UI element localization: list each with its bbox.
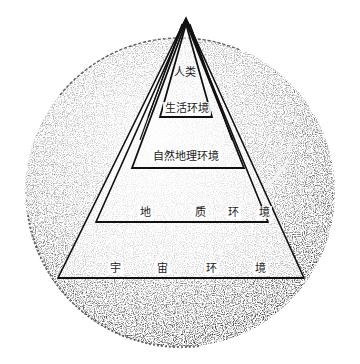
label-cosmic-environment: 宇宙环境 [108, 262, 268, 275]
label-natural-geographic-environment: 自然地理环境 [151, 150, 221, 163]
label-living-environment: 生活环境 [163, 102, 211, 115]
geologic-char-3: 环 [226, 206, 241, 219]
environment-pyramid-diagram [0, 0, 360, 364]
cosmic-char-1: 宇 [108, 262, 123, 275]
label-geologic-environment: 地质环境 [138, 206, 272, 219]
cropped-caption [14, 0, 264, 2]
label-human: 人类 [174, 66, 196, 79]
cosmic-char-3: 环 [204, 262, 219, 275]
geologic-char-1: 地 [138, 206, 153, 219]
diagram-canvas: 人类 生活环境 自然地理环境 地质环境 宇宙环境 [0, 0, 360, 364]
cosmic-char-4: 境 [253, 262, 268, 275]
geologic-char-4: 境 [257, 206, 272, 219]
cosmic-char-2: 宙 [155, 262, 170, 275]
geologic-char-2: 质 [193, 206, 208, 219]
